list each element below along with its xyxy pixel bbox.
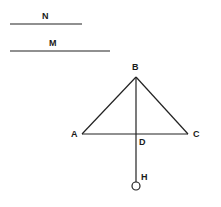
plumb-bob-circle (132, 182, 140, 190)
side-bc (136, 77, 188, 134)
label-a: A (71, 129, 78, 139)
label-d: D (139, 137, 146, 147)
side-ab (82, 77, 136, 134)
label-n: N (42, 11, 49, 21)
label-m: M (49, 38, 57, 48)
geometry-diagram: N M B A C D H (0, 0, 221, 207)
label-b: B (132, 62, 139, 72)
label-h: H (141, 172, 148, 182)
label-c: C (193, 129, 200, 139)
